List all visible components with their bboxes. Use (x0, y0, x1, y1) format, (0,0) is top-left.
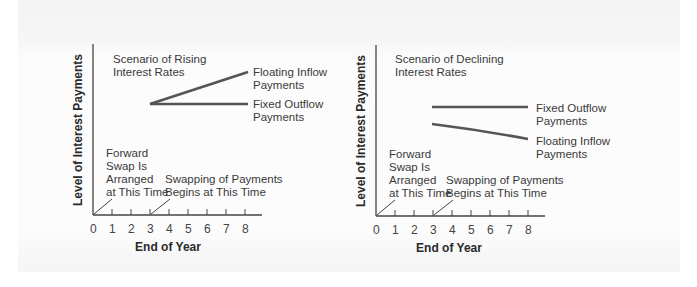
fixed-label-line2: Payments (253, 111, 304, 123)
chart-title-line2: Interest Rates (395, 66, 467, 78)
svg-text:8: 8 (242, 222, 249, 236)
fixed-label-line2: Payments (536, 115, 587, 127)
chart-title-line1: Scenario of Rising (113, 53, 206, 65)
svg-text:7: 7 (223, 222, 230, 236)
swap-note-line1: Swapping of Payments (446, 174, 564, 186)
swap-note-pointer (434, 200, 453, 215)
svg-text:8: 8 (525, 223, 532, 237)
floating-label-line2: Payments (253, 79, 304, 91)
y-axis-title: Level of Interest Payments (71, 54, 85, 206)
swap-note-pointer (151, 199, 170, 214)
svg-text:2: 2 (128, 222, 135, 236)
svg-text:6: 6 (204, 222, 211, 236)
forward-note-line3: Arranged (389, 174, 436, 186)
fixed-label-line1: Fixed Outflow (253, 98, 324, 110)
chart-title-line1: Scenario of Declining (395, 53, 504, 65)
x-ticks (395, 210, 528, 216)
figure: 01 23 45 67 8 End of Year Level of Inter… (0, 0, 697, 287)
forward-note-line1: Forward (389, 148, 431, 160)
y-axis-title: Level of Interest Payments (354, 55, 368, 207)
x-axis-title: End of Year (135, 240, 201, 254)
svg-text:3: 3 (147, 222, 154, 236)
forward-note-line2: Swap Is (389, 161, 430, 173)
floating-label-line1: Floating Inflow (536, 135, 611, 147)
x-tick-labels: 01 23 45 67 8 (90, 222, 249, 236)
svg-text:0: 0 (373, 223, 380, 237)
svg-text:6: 6 (487, 223, 494, 237)
swap-note-line1: Swapping of Payments (165, 173, 283, 185)
x-tick-labels: 01 23 45 67 8 (373, 223, 532, 237)
svg-text:7: 7 (506, 223, 513, 237)
svg-text:2: 2 (411, 223, 418, 237)
chart-declining-rates: 01 23 45 67 8 End of Year Level of Inter… (354, 45, 611, 255)
forward-note-pointer (94, 199, 112, 214)
forward-note-line1: Forward (106, 147, 148, 159)
svg-text:3: 3 (430, 223, 437, 237)
svg-text:1: 1 (392, 223, 399, 237)
forward-note-line4: at This Time (389, 187, 451, 199)
chart-rising-rates: 01 23 45 67 8 End of Year Level of Inter… (71, 44, 328, 254)
floating-inflow-line (432, 124, 528, 139)
forward-note-line4: at This Time (106, 186, 168, 198)
fixed-label-line1: Fixed Outflow (536, 102, 607, 114)
forward-note-pointer (377, 200, 395, 215)
svg-text:1: 1 (109, 222, 116, 236)
x-ticks (112, 209, 245, 215)
x-axis-title: End of Year (416, 241, 482, 255)
swap-note-line2: Begins at This Time (446, 187, 547, 199)
chart-title-line2: Interest Rates (113, 66, 185, 78)
svg-text:5: 5 (468, 223, 475, 237)
forward-note-line2: Swap Is (106, 160, 147, 172)
svg-text:4: 4 (166, 222, 173, 236)
floating-label-line1: Floating Inflow (253, 66, 328, 78)
swap-note-line2: Begins at This Time (165, 186, 266, 198)
forward-note-line3: Arranged (106, 173, 153, 185)
svg-text:4: 4 (449, 223, 456, 237)
svg-text:5: 5 (185, 222, 192, 236)
svg-text:0: 0 (90, 222, 97, 236)
floating-label-line2: Payments (536, 148, 587, 160)
